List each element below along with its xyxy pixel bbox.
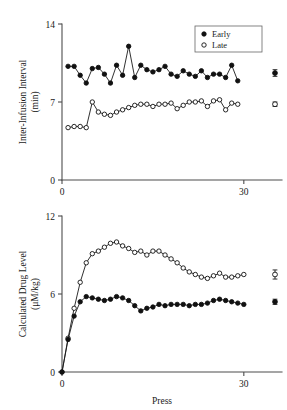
data-point-late <box>169 257 173 261</box>
data-point-late <box>199 99 203 103</box>
data-point-early <box>193 302 197 306</box>
data-point-late <box>120 108 124 112</box>
x-tick-label-top-1: 30 <box>239 187 249 197</box>
mean-marker-point <box>273 299 278 304</box>
y-tick-label-top-0: 0 <box>50 176 55 186</box>
data-point-late <box>133 250 137 254</box>
y-tick-label-bottom-0: 0 <box>50 368 55 378</box>
data-point-late <box>187 270 191 274</box>
x-tick-label-bottom-0: 0 <box>60 379 65 389</box>
data-point-early <box>230 63 234 67</box>
legend-marker-late <box>202 43 206 47</box>
data-point-early <box>102 72 106 76</box>
data-point-early <box>78 300 82 304</box>
data-point-early <box>223 298 227 302</box>
data-point-early <box>193 74 197 78</box>
data-point-early <box>102 298 106 302</box>
data-point-early <box>120 73 124 77</box>
data-point-late <box>108 113 112 117</box>
two-panel-line-chart: 0714030Inter-Infusion Interval(min)06120… <box>0 0 287 410</box>
data-point-early <box>163 304 167 308</box>
data-point-late <box>199 275 203 279</box>
data-point-early <box>145 67 149 71</box>
data-point-early <box>230 300 234 304</box>
data-point-late <box>187 100 191 104</box>
data-point-early <box>72 314 76 318</box>
y-tick-label-top-1: 7 <box>50 98 55 108</box>
data-point-late <box>193 100 197 104</box>
data-point-early <box>84 294 88 298</box>
y-tick-label-top-2: 14 <box>46 20 56 30</box>
data-point-late <box>151 104 155 108</box>
data-point-late <box>114 110 118 114</box>
x-tick-label-top-0: 0 <box>60 187 65 197</box>
legend-label-early: Early <box>212 29 231 39</box>
data-point-late <box>217 98 221 102</box>
data-point-late <box>78 280 82 284</box>
mean-sem-marker-late-top <box>273 102 278 107</box>
data-point-early <box>223 75 227 79</box>
data-point-early <box>120 296 124 300</box>
data-point-late <box>163 253 167 257</box>
data-point-late <box>102 245 106 249</box>
data-point-early <box>126 298 130 302</box>
mean-sem-marker-late-bottom <box>273 270 278 279</box>
series-bottom-early <box>60 294 278 374</box>
data-point-late <box>211 99 215 103</box>
data-point-late <box>120 244 124 248</box>
data-point-early <box>90 296 94 300</box>
panel-bottom: 0612030Calculated Drug Level(μM/kg)Press <box>18 212 282 407</box>
data-point-early <box>205 75 209 79</box>
series-top-late <box>66 98 278 130</box>
y-axis-title-bottom: Calculated Drug Level <box>18 250 28 337</box>
data-point-late <box>157 102 161 106</box>
data-point-late <box>236 274 240 278</box>
data-point-early <box>187 304 191 308</box>
data-point-late <box>72 306 76 310</box>
data-point-late <box>108 241 112 245</box>
data-point-early <box>108 297 112 301</box>
data-point-late <box>175 106 179 110</box>
data-point-early <box>114 294 118 298</box>
x-axis-title-bottom: Press <box>152 396 172 406</box>
data-point-late <box>102 112 106 116</box>
data-point-early <box>157 302 161 306</box>
data-point-early <box>66 337 70 341</box>
data-point-early <box>217 72 221 76</box>
y-tick-label-bottom-2: 12 <box>46 212 56 222</box>
data-point-late <box>114 240 118 244</box>
data-point-early <box>199 302 203 306</box>
data-point-late <box>145 253 149 257</box>
data-point-late <box>78 124 82 128</box>
data-point-late <box>96 249 100 253</box>
data-point-early <box>133 75 137 79</box>
data-point-late <box>66 125 70 129</box>
data-point-late <box>242 272 246 276</box>
mean-sem-marker-early-bottom <box>273 299 278 304</box>
data-point-early <box>60 370 64 374</box>
data-point-early <box>181 69 185 73</box>
data-point-early <box>163 64 167 68</box>
data-point-late <box>205 104 209 108</box>
data-point-early <box>151 305 155 309</box>
data-point-early <box>175 74 179 78</box>
data-point-early <box>96 297 100 301</box>
data-point-late <box>84 125 88 129</box>
data-point-early <box>108 81 112 85</box>
data-point-late <box>181 266 185 270</box>
data-point-late <box>230 275 234 279</box>
data-point-early <box>157 67 161 71</box>
data-point-late <box>230 101 234 105</box>
data-point-late <box>90 252 94 256</box>
data-point-early <box>78 73 82 77</box>
data-point-early <box>66 64 70 68</box>
data-point-late <box>126 105 130 109</box>
data-point-late <box>139 102 143 106</box>
data-point-late <box>236 102 240 106</box>
data-point-late <box>151 249 155 253</box>
figure-panel-container: 0714030Inter-Infusion Interval(min)06120… <box>0 0 287 410</box>
data-point-late <box>145 102 149 106</box>
data-point-early <box>211 298 215 302</box>
data-point-early <box>169 302 173 306</box>
y-axis-title-top: Inter-Infusion Interval <box>18 59 28 144</box>
